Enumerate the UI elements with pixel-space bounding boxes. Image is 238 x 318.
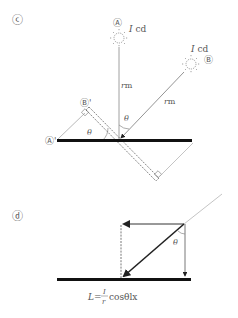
source-a-intensity: I cd bbox=[128, 24, 146, 34]
panel-d: ⓓ θ L= I r cosθlx bbox=[12, 194, 222, 306]
light-source-a: Ⓐ I cd bbox=[110, 18, 146, 47]
angle-theta: θ bbox=[173, 238, 178, 247]
incident-vector-arrow bbox=[124, 224, 184, 276]
projection-b-label: Ⓑ' bbox=[80, 98, 91, 108]
incident-ray bbox=[184, 194, 222, 224]
angle-arc-left bbox=[103, 128, 108, 140]
angle-arc bbox=[178, 231, 185, 234]
angle-left: θ bbox=[87, 128, 92, 137]
source-b-label: Ⓑ bbox=[204, 55, 213, 65]
formula-rest: cosθlx bbox=[109, 292, 137, 302]
projection-line-a bbox=[58, 113, 85, 139]
panel-d-label: ⓓ bbox=[12, 210, 23, 223]
projection-a-label: Ⓐ' bbox=[45, 136, 56, 146]
light-source-b: I cd Ⓑ bbox=[182, 44, 213, 73]
source-b-intensity: I cd bbox=[190, 44, 208, 54]
tilted-surface bbox=[86, 107, 159, 181]
source-a-label: Ⓐ bbox=[113, 18, 122, 28]
right-angle-mark bbox=[81, 109, 88, 116]
projection-line-b bbox=[160, 143, 193, 176]
panel-c: ⓒ Ⓐ I cd I cd bbox=[12, 14, 213, 181]
formula-numerator: I bbox=[102, 288, 106, 296]
distance-a: rm bbox=[121, 81, 133, 90]
panel-c-label: ⓒ bbox=[12, 14, 23, 27]
ground-surface bbox=[57, 139, 192, 142]
sun-icon bbox=[182, 55, 200, 73]
illuminance-formula: L= I r cosθlx bbox=[87, 288, 137, 306]
ground-surface bbox=[57, 278, 191, 281]
illuminance-diagram: ⓒ Ⓐ I cd I cd bbox=[0, 0, 238, 318]
distance-b: rm bbox=[164, 97, 176, 106]
angle-arc-top bbox=[119, 125, 129, 129]
angle-top: θ bbox=[124, 114, 129, 123]
sun-icon bbox=[110, 29, 128, 47]
formula-denominator: r bbox=[102, 298, 106, 306]
formula-lhs: L= bbox=[87, 292, 102, 302]
